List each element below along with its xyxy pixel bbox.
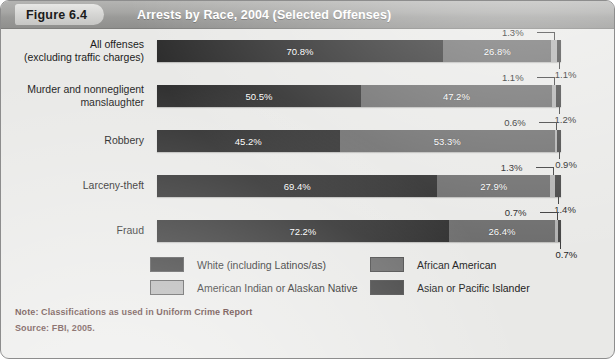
leader-line-asian-pacific-vertical: [559, 152, 560, 159]
callout-american-indian: 1.3%: [502, 27, 524, 38]
legend-item: American Indian or Alaskan Native: [150, 280, 358, 295]
leader-line-asian-pacific-vertical: [559, 62, 560, 69]
legend-swatch: [150, 257, 184, 272]
bar-segment-asian-pacific: [555, 175, 561, 197]
bar-segment-value: 72.2%: [289, 226, 316, 237]
leader-line-american-indian-vertical: [553, 167, 554, 175]
leader-line-american-indian-horizontal: [539, 122, 556, 123]
leader-line-asian-pacific-vertical: [559, 107, 560, 114]
bar-segment-african-american: 27.9%: [437, 175, 550, 197]
bar-segment-value: 26.8%: [484, 46, 511, 57]
bar-segment-value: 53.3%: [434, 136, 461, 147]
figure-source: Source: FBI, 2005.: [1, 320, 615, 336]
chart-legend: White (including Latinos/as)African Amer…: [1, 255, 615, 301]
legend-label: Asian or Pacific Islander: [417, 282, 530, 294]
bar-segment-asian-pacific: [558, 220, 561, 242]
bar-segment-white: 70.8%: [157, 40, 443, 62]
bar-segment-value: 69.4%: [284, 181, 311, 192]
leader-line-american-indian-horizontal: [540, 212, 557, 213]
bar-segment-value: 27.9%: [480, 181, 507, 192]
legend-item: Asian or Pacific Islander: [370, 280, 530, 295]
stacked-bar: 50.5%47.2%: [157, 85, 561, 107]
row-category-label: Fraud: [1, 208, 150, 253]
figure-number-tab: Figure 6.4: [15, 4, 104, 25]
chart-row: Fraud72.2%26.4%0.7%0.7%: [1, 208, 615, 253]
figure-title: Arrests by Race, 2004 (Selected Offenses…: [137, 1, 391, 28]
stacked-bar: 72.2%26.4%: [157, 220, 561, 242]
legend-item: White (including Latinos/as): [150, 257, 326, 272]
legend-swatch: [150, 280, 184, 295]
callout-american-indian: 0.7%: [505, 207, 527, 218]
leader-line-asian-pacific-vertical: [560, 242, 561, 249]
bar-segment-value: 70.8%: [287, 46, 314, 57]
leader-line-american-indian-vertical: [557, 212, 558, 220]
legend-swatch: [370, 280, 404, 295]
leader-line-american-indian-horizontal: [537, 77, 554, 78]
row-label-line-1: Larceny-theft: [83, 179, 144, 192]
figure-header-bar: Figure 6.4 Arrests by Race, 2004 (Select…: [1, 1, 615, 29]
bar-segment-value: 26.4%: [489, 226, 516, 237]
legend-label: White (including Latinos/as): [197, 259, 326, 271]
bar-segment-white: 69.4%: [157, 175, 437, 197]
bar-segment-asian-pacific: [556, 85, 561, 107]
leader-line-american-indian-horizontal: [536, 167, 553, 168]
chart-row: All offenses(excluding traffic charges)7…: [1, 28, 615, 73]
bar-segment-value: 45.2%: [235, 136, 262, 147]
row-label-line-1: Robbery: [104, 134, 144, 147]
bar-segment-african-american: 26.4%: [449, 220, 556, 242]
callout-american-indian: 0.6%: [504, 117, 526, 128]
row-label-line-1: All offenses: [90, 38, 144, 51]
figure-footer: Note: Classifications as used in Uniform…: [1, 304, 615, 336]
leader-line-american-indian-horizontal: [537, 32, 554, 33]
row-category-label: Robbery: [1, 118, 150, 163]
leader-line-american-indian-vertical: [554, 77, 555, 85]
stacked-bar: 69.4%27.9%: [157, 175, 561, 197]
bar-segment-value: 50.5%: [246, 91, 273, 102]
chart-row: Larceny-theft69.4%27.9%1.3%1.4%: [1, 163, 615, 208]
bar-segment-white: 72.2%: [157, 220, 449, 242]
legend-label: American Indian or Alaskan Native: [197, 282, 358, 294]
row-label-line-2: manslaughter: [80, 96, 144, 109]
bar-segment-african-american: 53.3%: [340, 130, 555, 152]
row-category-label: Larceny-theft: [1, 163, 150, 208]
legend-label: African American: [417, 259, 496, 271]
row-label-line-1: Murder and nonnegligent: [27, 83, 144, 96]
figure-note: Note: Classifications as used in Uniform…: [1, 304, 615, 320]
bar-segment-asian-pacific: [557, 40, 561, 62]
bar-segment-asian-pacific: [557, 130, 561, 152]
bar-segment-african-american: 26.8%: [443, 40, 551, 62]
figure-panel: Figure 6.4 Arrests by Race, 2004 (Select…: [0, 0, 615, 359]
callout-american-indian: 1.3%: [501, 162, 523, 173]
callout-american-indian: 1.1%: [502, 72, 524, 83]
row-category-label: All offenses(excluding traffic charges): [1, 28, 150, 73]
leader-line-american-indian-vertical: [554, 32, 555, 40]
bar-segment-white: 50.5%: [157, 85, 361, 107]
bar-segment-white: 45.2%: [157, 130, 340, 152]
row-label-line-2: (excluding traffic charges): [24, 51, 144, 64]
chart-row: Robbery45.2%53.3%0.6%0.9%: [1, 118, 615, 163]
stacked-bar: 70.8%26.8%: [157, 40, 561, 62]
row-label-line-1: Fraud: [117, 224, 144, 237]
chart-plot-area: All offenses(excluding traffic charges)7…: [1, 28, 615, 253]
stacked-bar: 45.2%53.3%: [157, 130, 561, 152]
bar-segment-african-american: 47.2%: [361, 85, 552, 107]
leader-line-american-indian-vertical: [556, 122, 557, 130]
legend-item: African American: [370, 257, 496, 272]
leader-line-asian-pacific-vertical: [558, 197, 559, 204]
legend-swatch: [370, 257, 404, 272]
chart-row: Murder and nonnegligentmanslaughter50.5%…: [1, 73, 615, 118]
bar-segment-value: 47.2%: [443, 91, 470, 102]
row-category-label: Murder and nonnegligentmanslaughter: [1, 73, 150, 118]
